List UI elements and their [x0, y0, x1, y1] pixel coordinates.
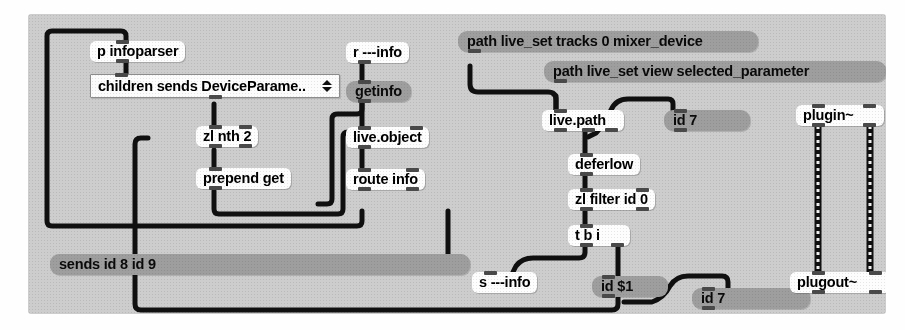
outlet-middle [582, 128, 595, 132]
inlet [358, 80, 371, 84]
message-getinfo[interactable]: getinfo [346, 81, 411, 102]
inlet-left [812, 104, 825, 108]
inlet [674, 109, 687, 113]
object-route-info[interactable]: route info [346, 169, 425, 190]
inlet [580, 153, 593, 157]
outlet-left [812, 123, 825, 127]
object-send-info[interactable]: s ---info [472, 272, 537, 293]
inlet [602, 275, 615, 279]
outlet-left [554, 128, 567, 132]
message-label: path live_set tracks 0 mixer_device [467, 34, 703, 49]
object-label: t b i [575, 228, 600, 243]
object-receive-info[interactable]: r ---info [346, 42, 409, 63]
object-label: zl filter id 0 [575, 192, 648, 207]
object-live-path[interactable]: live.path [542, 110, 624, 131]
inlet-left [358, 126, 371, 130]
message-id-7-top[interactable]: id 7 [664, 110, 750, 131]
patcher-window: p infoparser children sends DeviceParame… [0, 0, 905, 330]
object-plugout-tilde[interactable]: plugout~ [790, 272, 886, 293]
inlet-left [812, 271, 825, 275]
patcher-canvas[interactable]: p infoparser children sends DeviceParame… [28, 14, 886, 314]
inlet [484, 271, 497, 275]
outlet [468, 49, 481, 53]
outlet [554, 79, 567, 83]
cable-tbi-to-sinfo [513, 246, 585, 272]
outlet [116, 59, 129, 63]
object-p-infoparser[interactable]: p infoparser [90, 41, 185, 62]
object-plugin-tilde[interactable]: plugin~ [796, 105, 884, 126]
object-label: zl nth 2 [203, 129, 251, 144]
object-deferlow[interactable]: deferlow [568, 154, 640, 175]
message-label: id 7 [701, 291, 725, 306]
object-zl-nth-2[interactable]: zl nth 2 [196, 126, 258, 147]
outlet-left [580, 243, 593, 247]
outlet [602, 294, 615, 298]
outlet-right [406, 187, 419, 191]
outlet-left [358, 187, 371, 191]
object-label: r ---info [353, 45, 402, 60]
object-live-object[interactable]: live.object [346, 127, 429, 148]
object-prepend-get[interactable]: prepend get [196, 168, 291, 189]
inlet-right [863, 104, 876, 108]
outlet-right [605, 128, 618, 132]
outlet [358, 60, 371, 64]
inlet-left [580, 188, 593, 192]
inlet-right [636, 188, 649, 192]
message-label: sends id 8 id 9 [59, 257, 156, 272]
outlet-right [239, 144, 252, 148]
object-label: plugout~ [797, 275, 857, 290]
outlet-left [812, 290, 825, 294]
inlet-left [358, 168, 371, 172]
message-path-selected-parameter[interactable]: path live_set view selected_parameter [544, 61, 886, 82]
outlet-right [611, 243, 624, 247]
inlet [116, 40, 129, 44]
umenu-selected-value: children sends DeviceParame.. [98, 79, 312, 94]
object-label: live.object [353, 130, 422, 145]
chevron-updown-icon[interactable] [322, 80, 332, 92]
outlet-left [209, 144, 222, 148]
outlet-right [863, 123, 876, 127]
outlet [209, 186, 222, 190]
outlet [674, 128, 687, 132]
object-trigger-b-i[interactable]: t b i [568, 225, 630, 246]
object-label: p infoparser [97, 44, 178, 59]
object-label: plugin~ [803, 108, 854, 123]
outlet [580, 172, 593, 176]
inlet [580, 224, 593, 228]
inlet-right [406, 168, 419, 172]
inlet-left [209, 125, 222, 129]
object-label: prepend get [203, 171, 284, 186]
outlet-right [869, 290, 882, 294]
umenu-device-parameter[interactable]: children sends DeviceParame.. [90, 74, 340, 98]
object-label: route info [353, 172, 418, 187]
object-zl-filter-id-0[interactable]: zl filter id 0 [568, 189, 655, 210]
message-label: id $1 [601, 279, 633, 294]
outlet [358, 99, 371, 103]
message-sends-id-8-id-9[interactable]: sends id 8 id 9 [50, 254, 470, 275]
inlet-right [869, 271, 882, 275]
message-label: id 7 [673, 113, 697, 128]
inlet-right [410, 126, 423, 130]
message-label: path live_set view selected_parameter [553, 64, 809, 79]
outlet [209, 95, 222, 99]
inlet [554, 109, 567, 113]
inlet-right [239, 125, 252, 129]
message-label: getinfo [355, 84, 402, 99]
object-label: deferlow [575, 157, 633, 172]
object-label: live.path [549, 113, 606, 128]
outlet [358, 145, 371, 149]
outlet [702, 306, 715, 310]
outlet-right [636, 207, 649, 211]
inlet [115, 73, 128, 77]
inlet [209, 167, 222, 171]
message-path-mixer-device[interactable]: path live_set tracks 0 mixer_device [458, 31, 758, 52]
object-label: s ---info [479, 275, 530, 290]
inlet [702, 287, 715, 291]
outlet-left [580, 207, 593, 211]
message-id-dollar-1[interactable]: id $1 [592, 276, 668, 297]
